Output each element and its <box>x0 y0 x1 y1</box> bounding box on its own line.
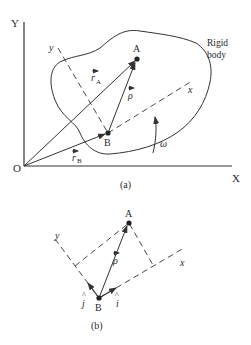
point-b-b <box>96 295 101 300</box>
point-b-label: B <box>104 137 111 148</box>
rho-label: ρ <box>127 88 134 101</box>
point-a-label: A <box>133 43 141 54</box>
local-x-label: x <box>187 84 193 95</box>
figure-b: y x ρ A B ^ j ^ i (b) <box>54 208 185 332</box>
unit-vector-i <box>99 288 116 298</box>
svg-text:ρ: ρ <box>112 255 118 266</box>
omega-label: ω <box>160 138 167 149</box>
unit-vector-j <box>88 283 99 298</box>
figure-a: Y X O Rigid body y x A B r A ρ <box>11 17 240 191</box>
origin-label: O <box>13 162 21 174</box>
j-hat-label: ^ j <box>80 291 86 309</box>
rigid-body-label-line1: Rigid <box>207 38 228 48</box>
svg-text:ρ: ρ <box>127 90 133 101</box>
rigid-body-label-line2: body <box>207 50 226 60</box>
local-x-label-b: x <box>179 257 185 268</box>
y-axis-label: Y <box>11 17 19 29</box>
local-y-axis <box>58 48 108 133</box>
svg-text:B: B <box>77 157 82 165</box>
svg-text:A: A <box>96 78 101 86</box>
r-a-label: r A <box>91 71 101 86</box>
svg-text:r: r <box>91 72 95 83</box>
caption-b: (b) <box>91 320 103 332</box>
point-a-label-b: A <box>125 208 133 219</box>
point-b <box>105 130 110 135</box>
r-b-label: r B <box>72 151 82 165</box>
rho-label-b: ρ <box>112 253 119 266</box>
point-a <box>134 56 139 61</box>
point-a-b <box>126 220 131 225</box>
caption-a: (a) <box>120 179 131 191</box>
local-y-label: y <box>48 42 54 53</box>
x-axis-label: X <box>232 172 240 184</box>
svg-text:j: j <box>80 298 85 309</box>
svg-text:i: i <box>116 298 119 309</box>
point-b-label-b: B <box>95 302 102 313</box>
vector-r-a <box>24 61 135 166</box>
i-hat-label: ^ i <box>115 291 119 309</box>
local-x-axis <box>108 81 192 133</box>
angular-velocity-arrow <box>153 117 156 153</box>
local-y-label-b: y <box>54 230 60 241</box>
svg-text:r: r <box>72 152 76 163</box>
rigid-body-kinematics-diagram: Y X O Rigid body y x A B r A ρ <box>0 0 251 345</box>
